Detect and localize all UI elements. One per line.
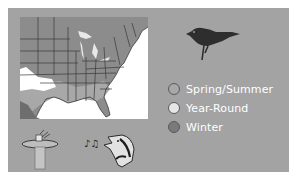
singing-bird-icon: ♪♫ [82,131,136,169]
legend-label: Year-Round [186,102,248,115]
bird-bath-icon [20,128,60,172]
winter-swatch [168,121,180,133]
bird-silhouette-icon [184,22,242,62]
year-round-swatch [168,102,180,114]
legend-label: Winter [186,121,223,134]
range-map [20,17,148,119]
us-map-image [20,17,148,119]
legend-label: Spring/Summer [186,83,273,96]
spring-summer-swatch [168,83,180,95]
legend-item-year-round: Year-Round [168,99,273,117]
music-note-icon: ♪♫ [84,138,99,149]
range-legend: Spring/Summer Year-Round Winter [168,80,273,137]
range-map-card: Spring/Summer Year-Round Winter ♪♫ [8,8,289,172]
legend-item-spring-summer: Spring/Summer [168,80,273,98]
legend-item-winter: Winter [168,118,273,136]
